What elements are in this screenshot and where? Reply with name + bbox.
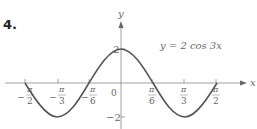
x-tick-label-neg-pi-3-den: 3 (59, 96, 65, 106)
x-tick-label-neg-pi-2-den: 2 (27, 96, 33, 106)
x-tick-label-pi-2-den: 2 (213, 96, 219, 106)
origin-label: 0 (111, 88, 117, 98)
x-tick-label-pi-6-num: π (148, 85, 155, 94)
x-tick-label-neg-pi-3-num: π (58, 85, 65, 94)
x-axis-label: x (250, 77, 256, 88)
equation-label: y = 2 cos 3x (159, 40, 222, 51)
x-tick-label-pi-3-num: π (180, 85, 187, 94)
x-ticks (25, 79, 216, 83)
x-tick-label-neg-pi-3-sign: − (49, 92, 57, 102)
x-tick-label-neg-pi-6-num: π (89, 85, 96, 94)
x-tick-label-pi-3-den: 3 (181, 96, 187, 106)
x-axis-arrow-icon (240, 81, 247, 86)
x-tick-label-neg-pi-6-den: 6 (90, 96, 96, 106)
y-tick-label-neg2: −2 (106, 112, 121, 123)
y-axis-arrow-icon (119, 21, 124, 28)
cosine-chart: x y 2 −2 − π 2 − π 3 − π 6 0 π 6 (0, 0, 257, 129)
y-axis-label: y (117, 8, 124, 19)
x-tick-labels: − π 2 − π 3 − π 6 0 π 6 π 3 π 2 (17, 85, 220, 106)
x-tick-label-neg-pi-2-sign: − (17, 92, 25, 102)
x-tick-label-pi-6-den: 6 (149, 96, 155, 106)
